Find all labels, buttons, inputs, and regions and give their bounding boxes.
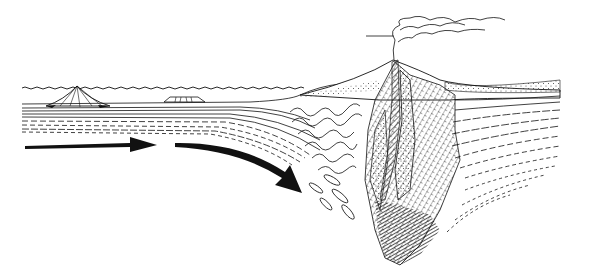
continental-crust-layers bbox=[447, 96, 560, 232]
flat-topped-guyot bbox=[164, 97, 205, 102]
eruption-plume bbox=[366, 16, 505, 60]
subduction-diagram bbox=[0, 0, 601, 274]
plate-motion-arrow-straight bbox=[25, 137, 157, 152]
sea-surface bbox=[22, 87, 304, 89]
plate-motion-arrow-curved bbox=[175, 143, 302, 193]
